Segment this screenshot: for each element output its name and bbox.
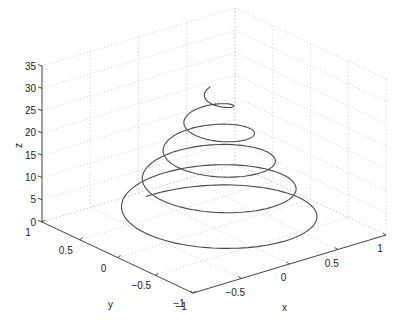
z-tick-label: 25 [25,105,37,116]
y-tick [80,238,83,240]
x-tick-label: −0.5 [225,287,245,298]
z-axis-label: z [13,143,24,148]
y-tick [155,273,158,275]
y-tick-label: 1 [25,227,31,238]
z-tick-label: 10 [25,172,37,183]
z-tick [38,154,42,156]
z-tick [38,65,42,67]
y-tick [118,256,121,258]
helix-3d-plot: −1−0.500.51−1−0.500.5105101520253035 x y… [0,0,408,326]
y-tick-label: −0.5 [131,280,151,291]
x-tick [287,262,290,264]
figure: −1−0.500.51−1−0.500.5105101520253035 x y… [0,0,408,326]
x-tick-label: 0.5 [325,258,339,269]
floor-grid-line [90,208,241,279]
z-tick [38,176,42,178]
z-tick-label: 30 [25,83,37,94]
floor-grid-line [80,182,273,240]
side-wall-grid-line [235,97,386,168]
y-tick-label: 0 [101,263,107,274]
x-axis-label: x [282,302,287,313]
z-tick-label: 5 [30,194,36,205]
x-tick [383,233,386,235]
back-wall-grid-line [42,8,235,66]
floor-grid-line [155,217,348,275]
z-tick [38,109,42,111]
side-wall-grid-line [235,75,386,146]
floor-grid-line [139,193,290,264]
side-wall-grid-line [235,164,386,235]
z-tick-label: 0 [30,217,36,228]
floor-grid-line [187,179,338,250]
z-tick [38,131,42,133]
z-tick [38,198,42,200]
x-tick [238,277,241,279]
y-tick-label: −1 [173,298,185,309]
x-tick [335,248,338,250]
y-tick-label: 0.5 [59,245,73,256]
z-tick-label: 15 [25,150,37,161]
helix-curve [122,87,317,249]
x-tick-label: 0 [281,272,287,283]
z-tick [38,221,42,223]
side-wall-grid-line [235,8,386,79]
z-tick [38,87,42,89]
y-axis-label: y [108,299,113,310]
z-tick-label: 20 [25,127,37,138]
z-tick-label: 35 [25,61,37,72]
x-tick-label: 1 [377,243,383,254]
helix-line [122,87,317,249]
